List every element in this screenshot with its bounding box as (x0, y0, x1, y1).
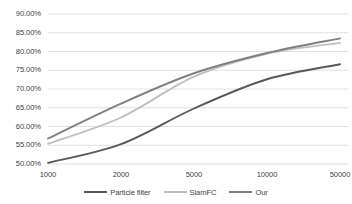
y-tick-label: 55.00% (3, 140, 41, 149)
y-tick-label: 65.00% (3, 103, 41, 112)
legend-label: Our (255, 188, 267, 197)
y-tick-label: 85.00% (3, 28, 41, 37)
y-tick-label: 90.00% (3, 9, 41, 18)
series-line (48, 64, 340, 163)
series-line (48, 43, 340, 144)
gridlines (48, 14, 348, 164)
y-tick-label: 50.00% (3, 159, 41, 168)
x-tick-label: 5000 (174, 170, 214, 179)
series-lines (48, 38, 340, 163)
x-tick-label: 2000 (101, 170, 141, 179)
chart-legend: Particle filterSiamFCOur (0, 184, 352, 200)
legend-item[interactable]: SiamFC (164, 188, 217, 197)
legend-item[interactable]: Particle filter (84, 188, 150, 197)
y-tick-label: 70.00% (3, 84, 41, 93)
x-tick-label: 1000 (28, 170, 68, 179)
legend-item[interactable]: Our (229, 188, 267, 197)
legend-line-swatch (164, 191, 187, 193)
line-chart: 50.00%55.00%60.00%65.00%70.00%75.00%80.0… (0, 0, 352, 204)
y-tick-label: 80.00% (3, 47, 41, 56)
x-tick-label: 10000 (247, 170, 287, 179)
y-tick-label: 60.00% (3, 122, 41, 131)
legend-label: Particle filter (110, 188, 150, 197)
legend-line-swatch (229, 191, 252, 193)
y-tick-label: 75.00% (3, 65, 41, 74)
x-tick-label: 50000 (320, 170, 352, 179)
legend-label: SiamFC (190, 188, 217, 197)
series-line (48, 38, 340, 138)
legend-line-swatch (84, 191, 107, 194)
